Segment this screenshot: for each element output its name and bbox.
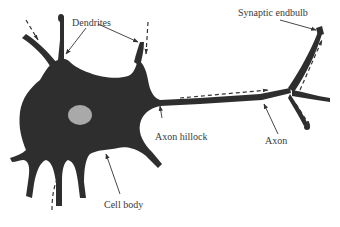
label-cell-body: Cell body <box>104 200 143 210</box>
neuron-diagram <box>0 0 340 227</box>
axon-branch-down <box>288 94 308 126</box>
axon-branch-up <box>288 32 322 92</box>
pointer-axon-hillock <box>160 106 162 118</box>
axon-branch-right <box>292 90 330 102</box>
pointer-cell-body <box>106 154 120 194</box>
signal-arrow-upper-right <box>146 22 148 54</box>
cell-body-shape <box>10 59 291 206</box>
neuron-shape <box>10 14 330 206</box>
label-axon: Axon <box>265 136 287 146</box>
label-dendrites: Dendrites <box>72 18 111 28</box>
pointer-synaptic-endbulb <box>280 20 316 30</box>
pointer-dendrites-left <box>66 28 86 54</box>
label-axon-hillock: Axon hillock <box>155 132 208 142</box>
dendrite-upper-right <box>134 42 144 66</box>
label-synaptic-endbulb: Synaptic endbulb <box>238 8 308 18</box>
nucleus <box>68 105 92 125</box>
dendrite-upper-left <box>22 34 56 66</box>
pointer-axon <box>264 104 278 134</box>
